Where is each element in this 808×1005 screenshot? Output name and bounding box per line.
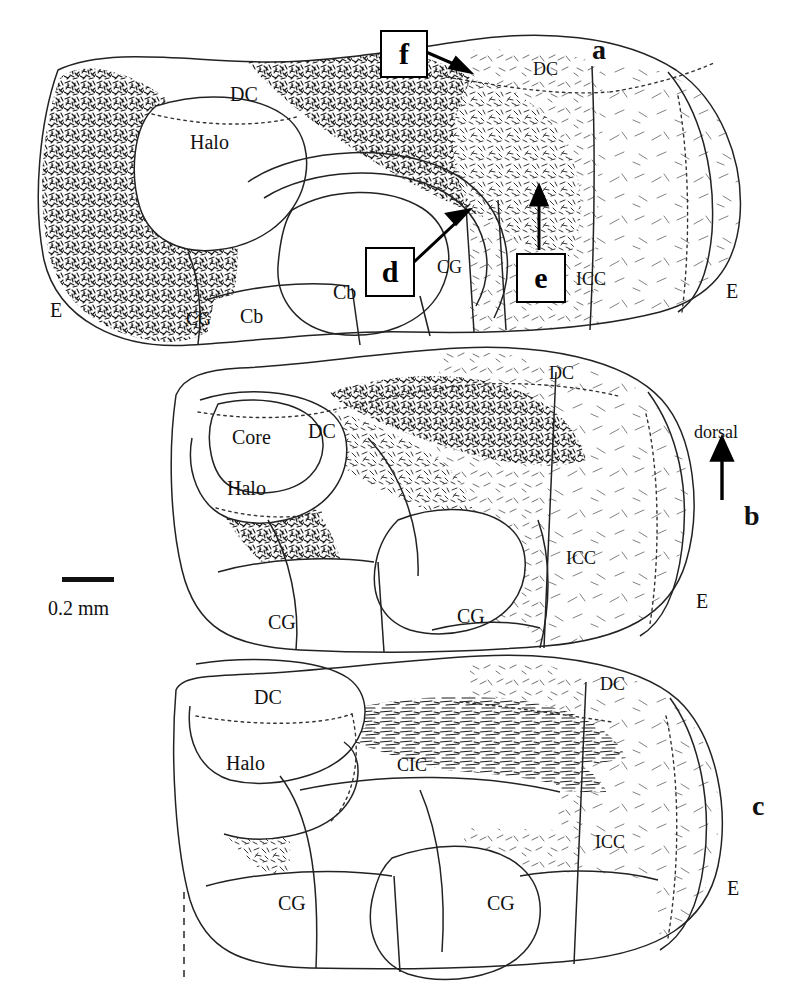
structure-label-dc-c: DC	[600, 675, 625, 693]
structure-label-cg-a: CG	[437, 258, 462, 276]
callout-label-e: e	[534, 263, 547, 293]
structure-label-core-b: Core	[232, 427, 271, 447]
structure-label-cb-a: Cb	[333, 282, 356, 302]
structure-label-halo-b: Halo	[227, 478, 266, 498]
structure-label-icc-b: ICC	[566, 549, 596, 567]
scale-bar-label: 0.2 mm	[48, 598, 109, 618]
panel-label-b: b	[744, 502, 760, 530]
callout-label-f: f	[399, 39, 409, 69]
structure-label-cg-c: CG	[278, 893, 306, 913]
callout-box-d[interactable]: d	[365, 247, 415, 297]
structure-label-e-a: E	[726, 281, 738, 301]
structure-label-dc-b: DC	[308, 421, 336, 441]
orientation-label-dorsal: dorsal	[694, 423, 738, 441]
structure-label-cb-a: Cb	[240, 306, 263, 326]
structure-label-cg-a: CG	[186, 310, 211, 328]
callout-box-f[interactable]: f	[380, 30, 428, 78]
panel-label-a: a	[592, 36, 606, 64]
structure-label-icc-a: ICC	[576, 270, 606, 288]
structure-label-dc-a: DC	[230, 84, 258, 104]
structure-label-cg-b: CG	[268, 612, 296, 632]
section-drawings	[0, 0, 808, 1005]
structure-label-dc-c: DC	[254, 687, 282, 707]
structure-label-halo-c: Halo	[226, 753, 265, 773]
structure-label-dc-b: DC	[549, 364, 574, 382]
callout-label-d: d	[382, 257, 399, 287]
structure-label-halo-a: Halo	[190, 132, 229, 152]
structure-label-e-b: E	[696, 591, 708, 611]
scale-bar	[62, 577, 114, 582]
dorsal-arrow-glyph	[712, 438, 732, 500]
structure-label-cg-b: CG	[457, 606, 485, 626]
structure-label-e-c: E	[727, 878, 739, 898]
structure-label-cg-c: CG	[487, 893, 515, 913]
structure-label-icc-c: ICC	[595, 833, 625, 851]
structure-label-dc-a: DC	[533, 60, 558, 78]
structure-label-cic-c: CIC	[397, 756, 427, 774]
callout-box-e[interactable]: e	[516, 253, 566, 303]
structure-label-e-a: E	[50, 300, 62, 320]
panel-label-c: c	[752, 792, 764, 820]
figure-plate: 0.2 mm dorsal a b c f d e DCHaloDCECGCbC…	[0, 0, 808, 1005]
